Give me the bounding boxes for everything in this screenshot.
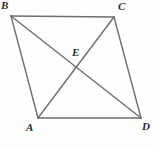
vertex-label-e: E: [72, 47, 79, 58]
vertex-label-c: C: [118, 1, 125, 12]
figure-background: [0, 0, 159, 146]
vertex-label-a: A: [26, 122, 33, 133]
parallelogram-diagram: [0, 0, 159, 146]
segment-side-BC: [11, 16, 114, 17]
vertex-label-b: B: [1, 0, 8, 11]
vertex-label-d: D: [142, 121, 150, 132]
geometry-figure: B C E A D: [0, 0, 159, 146]
